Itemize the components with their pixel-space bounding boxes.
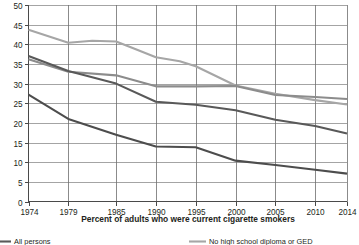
y-tick-label: 50 — [13, 2, 23, 11]
x-tick-label: 1974 — [20, 208, 39, 217]
y-tick-label: 45 — [13, 22, 23, 31]
x-tick-label: 1979 — [59, 208, 78, 217]
y-tick-label: 25 — [13, 100, 23, 109]
y-tick-label: 0 — [18, 199, 23, 208]
x-tick-label: 2014 — [338, 208, 357, 217]
y-tick-label: 35 — [13, 61, 23, 70]
x-tick-label: 2010 — [306, 208, 325, 217]
y-tick-label: 40 — [13, 41, 23, 50]
y-tick-label: 5 — [18, 179, 23, 188]
y-tick-label: 20 — [13, 120, 23, 129]
chart-figure: 05101520253035404550 1974197919851990199… — [0, 0, 359, 245]
y-tick-label: 30 — [13, 81, 23, 90]
y-tick-label: 15 — [13, 140, 23, 149]
line-chart: 05101520253035404550 1974197919851990199… — [0, 0, 359, 245]
y-tick-label: 10 — [13, 159, 23, 168]
chart-background — [0, 0, 359, 245]
x-axis-caption: Percent of adults who were current cigar… — [81, 214, 295, 224]
legend-label-all-persons: All persons — [14, 237, 51, 245]
legend-label-no-hs-diploma: No high school diploma or GED — [209, 237, 313, 245]
